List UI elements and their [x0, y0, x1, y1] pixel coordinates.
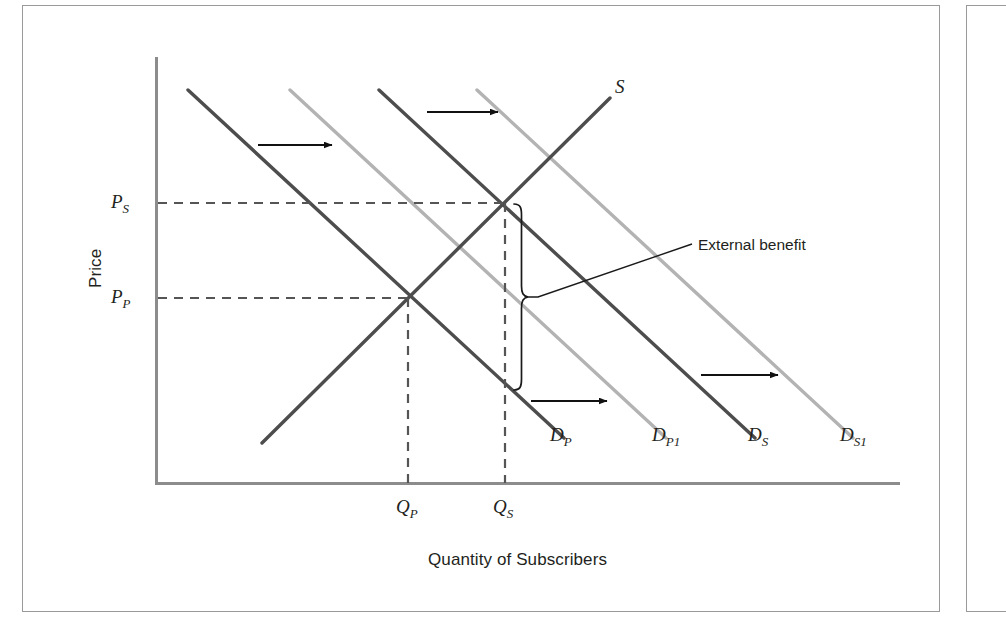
curve-label-dp1: DP1	[652, 424, 680, 450]
x-tick-qs: QS	[493, 496, 513, 522]
y-axis-title: Price	[86, 249, 106, 288]
x-axis-title: Quantity of Subscribers	[428, 550, 607, 570]
external-benefit-label: External benefit	[698, 236, 806, 254]
y-tick-pp: PP	[111, 286, 131, 312]
dashed-guides	[158, 203, 505, 483]
curve-dp1	[290, 90, 666, 438]
x-tick-qp: QP	[396, 496, 418, 522]
curve-supply	[262, 98, 610, 443]
curve-dp	[188, 90, 564, 438]
curve-label-supply: S	[615, 76, 625, 98]
curve-label-ds: DS	[748, 424, 768, 450]
axis-lines	[155, 57, 900, 484]
shift-arrows	[258, 112, 778, 401]
curve-label-dp: DP	[550, 424, 572, 450]
curve-ds1	[477, 90, 853, 438]
y-tick-ps: PS	[111, 191, 129, 217]
curve-label-ds1: DS1	[840, 424, 867, 450]
